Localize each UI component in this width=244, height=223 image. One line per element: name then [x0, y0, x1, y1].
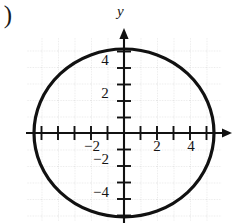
y-tick-label-4: 4: [100, 53, 110, 68]
y-axis-label: y: [117, 4, 124, 19]
y-tick-label-2: 2: [100, 86, 110, 101]
x-tick-label-2: 2: [152, 139, 162, 154]
x-tick-label-4: 4: [186, 139, 196, 154]
y-tick-label-neg4: −4: [92, 185, 110, 200]
coordinate-plane: [0, 0, 244, 223]
graph-figure: ): [0, 0, 244, 223]
y-tick-label-neg2: −2: [92, 152, 110, 167]
